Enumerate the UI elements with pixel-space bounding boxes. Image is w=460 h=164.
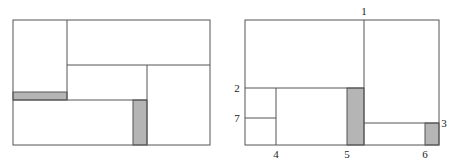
left-shaded-region: [13, 92, 67, 100]
left-partition-diagram: [13, 20, 210, 145]
left-shaded-region: [133, 100, 147, 145]
right-cut-label: 2: [234, 82, 240, 94]
right-cut-label: 4: [273, 148, 279, 160]
right-cut-label: 1: [361, 5, 367, 17]
right-cut-label: 5: [344, 148, 350, 160]
right-cut-label: 7: [234, 112, 240, 124]
right-shaded-region: [347, 88, 364, 145]
partition-diagrams: 1234567: [0, 0, 460, 164]
right-partition-diagram: 1234567: [234, 5, 447, 160]
right-shaded-region: [425, 123, 439, 145]
right-cut-label: 6: [422, 148, 428, 160]
left-outer-border: [13, 20, 210, 145]
right-outer-border: [245, 20, 439, 145]
right-cut-label: 3: [441, 117, 447, 129]
